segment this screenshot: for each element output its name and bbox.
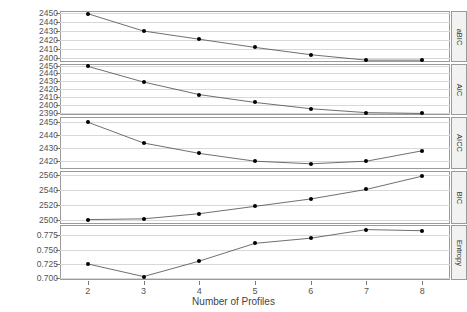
- y-axis-tick-label: 2520: [39, 200, 58, 210]
- y-axis-tick-label: 2500: [39, 215, 58, 225]
- data-point: [309, 107, 313, 111]
- data-series-aic: [60, 64, 450, 115]
- data-point: [142, 141, 146, 145]
- x-axis-tick: [199, 281, 200, 285]
- series-line: [88, 176, 422, 219]
- data-point: [309, 53, 313, 57]
- x-axis-tick-label: 3: [141, 286, 146, 296]
- data-series-abic: [60, 11, 450, 62]
- x-axis-title: Number of Profiles: [0, 296, 467, 307]
- x-axis-tick: [366, 281, 367, 285]
- panel-strip-label: AIC: [455, 83, 464, 96]
- series-line: [88, 14, 422, 60]
- data-point: [86, 12, 90, 16]
- y-axis-tick-label: 0.750: [37, 245, 58, 255]
- data-point: [309, 236, 313, 240]
- x-axis-tick-label: 6: [308, 286, 313, 296]
- y-axis-tick-label: 2560: [39, 170, 58, 180]
- data-point: [309, 197, 313, 201]
- panel-abic: aBIC: [0, 11, 467, 62]
- panel-strip-bic: BIC: [451, 171, 467, 224]
- data-point: [142, 217, 146, 221]
- x-axis-tick-label: 2: [85, 286, 90, 296]
- data-point: [142, 275, 146, 279]
- panel-strip-aicc: AICC: [451, 117, 467, 169]
- panel-bic: BIC: [0, 171, 467, 224]
- x-axis-tick: [144, 281, 145, 285]
- x-axis-tick-label: 5: [252, 286, 257, 296]
- chart-figure: aBICAICAICCBICEntropy 2345678 Number of …: [0, 0, 467, 312]
- data-point: [142, 29, 146, 33]
- panel-strip-entropy: Entropy: [451, 225, 467, 280]
- data-point: [86, 218, 90, 222]
- panel-plot-area: aBIC: [60, 11, 450, 62]
- y-axis-tick-label: 2450: [39, 117, 58, 127]
- y-axis-tick-label: 2440: [39, 130, 58, 140]
- series-line: [88, 230, 422, 277]
- data-point: [309, 162, 313, 166]
- panel-strip-label: BIC: [455, 191, 464, 204]
- panel-strip-label: AICC: [455, 134, 464, 152]
- y-axis-tick-label: 2420: [39, 156, 58, 166]
- x-axis-tick-label: 8: [420, 286, 425, 296]
- data-point: [197, 212, 201, 216]
- panel-strip-label: Entropy: [455, 240, 464, 266]
- panel-plot-area: AIC: [60, 64, 450, 115]
- panel-strip-label: aBIC: [455, 28, 464, 45]
- x-axis-tick: [88, 281, 89, 285]
- panel-strip-aic: AIC: [451, 64, 467, 115]
- y-axis-tick-label: 2430: [39, 143, 58, 153]
- y-axis-tick-label: 0.700: [37, 273, 58, 283]
- data-point: [420, 229, 424, 233]
- data-point: [86, 262, 90, 266]
- panel-entropy: Entropy: [0, 225, 467, 280]
- data-point: [420, 149, 424, 153]
- data-series-entropy: [60, 225, 450, 280]
- data-series-bic: [60, 171, 450, 224]
- y-axis-tick-label: 2540: [39, 185, 58, 195]
- panel-aicc: AICC: [0, 117, 467, 169]
- panel-strip-abic: aBIC: [451, 11, 467, 62]
- series-line: [88, 66, 422, 113]
- panel-aic: AIC: [0, 64, 467, 115]
- x-axis-tick-label: 4: [197, 286, 202, 296]
- y-axis-tick-label: 0.775: [37, 230, 58, 240]
- series-line: [88, 122, 422, 164]
- x-axis-tick: [255, 281, 256, 285]
- x-axis-tick-label: 7: [364, 286, 369, 296]
- panel-plot-area: Entropy: [60, 225, 450, 280]
- x-axis-tick: [422, 281, 423, 285]
- y-axis-tick-label: 2390: [39, 108, 58, 118]
- y-axis-tick-label: 0.725: [37, 259, 58, 269]
- x-axis-tick: [311, 281, 312, 285]
- data-point: [197, 93, 201, 97]
- panel-plot-area: BIC: [60, 171, 450, 224]
- data-point: [142, 80, 146, 84]
- panel-plot-area: AICC: [60, 117, 450, 169]
